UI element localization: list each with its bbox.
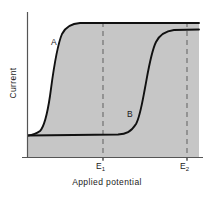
y-axis-label: Current: [8, 53, 18, 113]
shaded-band-below-axis: [28, 137, 199, 157]
x-tick-label-e2: E2: [180, 161, 189, 171]
x-tick-label-e1: E1: [96, 161, 105, 171]
x-tick-label-e2-subscript: 2: [186, 166, 189, 172]
chart-figure: Current Applied potential E1 E2 A B: [0, 0, 214, 197]
curve-label-b: B: [127, 109, 133, 119]
x-tick-label-e1-text: E: [96, 161, 102, 171]
x-tick-label-e2-text: E: [180, 161, 186, 171]
curve-label-a: A: [51, 37, 57, 47]
x-axis-label: Applied potential: [0, 177, 214, 187]
x-tick-label-e1-subscript: 1: [102, 166, 105, 172]
